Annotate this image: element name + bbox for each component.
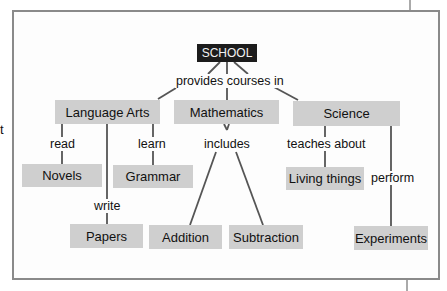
node-papers: Papers xyxy=(70,224,143,248)
link-label-provides-courses-in: provides courses in xyxy=(175,74,285,88)
link-label-learn: learn xyxy=(137,137,167,151)
node-addition: Addition xyxy=(149,225,222,249)
node-living-things: Living things xyxy=(286,167,364,190)
node-grammar: Grammar xyxy=(113,165,193,188)
link-label-write: write xyxy=(93,199,121,213)
link-label-includes: includes xyxy=(203,137,251,151)
link-label-read: read xyxy=(49,137,76,151)
node-mathematics: Mathematics xyxy=(174,100,279,124)
node-subtraction: Subtraction xyxy=(229,225,303,249)
node-school: SCHOOL xyxy=(197,44,257,62)
node-experiments: Experiments xyxy=(354,226,428,250)
node-language-arts: Language Arts xyxy=(55,100,160,124)
link-label-teaches-about: teaches about xyxy=(286,137,367,151)
node-novels: Novels xyxy=(22,164,102,187)
node-science: Science xyxy=(293,101,400,126)
link-label-perform: perform xyxy=(370,171,415,185)
